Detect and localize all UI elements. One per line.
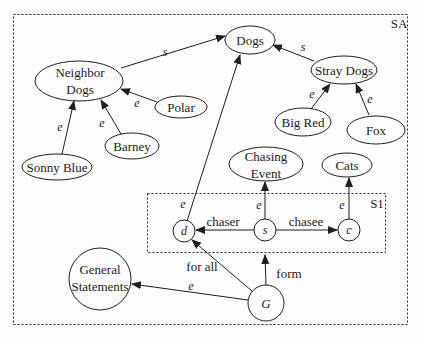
edge-label-e-s-up: e (256, 198, 262, 212)
edge-label-e-polar: e (134, 96, 140, 110)
node-neighbor-dogs-label-line1: Neighbor (55, 65, 105, 80)
edge-stray-dogs-to-dogs (273, 45, 314, 61)
node-big-red-label: Big Red (282, 115, 325, 130)
edge-label-for-all: for all (186, 259, 218, 274)
node-chasing-event-label-line2: Event (251, 166, 282, 181)
node-cats-label: Cats (335, 158, 358, 173)
node-c-label: c (346, 223, 352, 237)
node-dogs-label: Dogs (236, 33, 263, 48)
node-neighbor-dogs-label-line2: Dogs (66, 82, 93, 97)
edge-g-to-s-form (265, 255, 266, 285)
edge-neighbor-dogs-to-dogs (121, 36, 225, 68)
node-barney-label: Barney (113, 139, 151, 154)
diagram-canvas: SA S1 s s e e e e e e e e chaser chasee … (0, 0, 422, 339)
edge-label-s-left: s (163, 45, 168, 59)
edge-label-chasee: chasee (289, 214, 324, 229)
edge-label-s-right: s (301, 40, 306, 54)
edge-label-e-d-dogs: e (180, 197, 186, 211)
edge-label-e-sonny: e (57, 120, 63, 134)
edge-label-e-fox: e (367, 92, 373, 106)
node-g-label: G (261, 296, 271, 311)
edge-label-e-bigred: e (309, 87, 315, 101)
node-general-statements-label-line1: General (79, 262, 121, 277)
edge-label-chaser: chaser (206, 214, 240, 229)
node-polar-label: Polar (167, 100, 195, 115)
node-s-label: s (263, 223, 268, 237)
inner-context-label: S1 (370, 196, 384, 211)
outer-context-label: SA (391, 16, 408, 31)
node-chasing-event-label-line1: Chasing (245, 149, 288, 164)
node-sonny-blue-label: Sonny Blue (26, 160, 87, 175)
edge-sonny-blue-to-neighbor-dogs (62, 101, 74, 154)
node-fox-label: Fox (366, 123, 387, 138)
edge-label-e-g-gs: e (188, 279, 194, 293)
edge-label-form: form (276, 266, 301, 281)
edge-d-to-dogs (187, 55, 240, 221)
node-stray-dogs-label: Stray Dogs (315, 63, 373, 78)
edge-label-e-barney: e (99, 116, 105, 130)
edge-label-e-c-up: e (339, 198, 345, 212)
node-d-label: d (181, 224, 188, 238)
node-general-statements-label-line2: Statements (71, 279, 128, 294)
semantic-network-diagram: SA S1 s s e e e e e e e e chaser chasee … (0, 0, 422, 339)
